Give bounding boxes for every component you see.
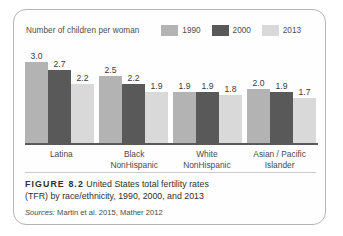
bar-group: 3.02.72.2	[25, 44, 94, 144]
bar-rect	[270, 92, 293, 144]
bar-value-label: 2.2	[128, 73, 140, 83]
sources-label: Sources:	[25, 208, 55, 217]
x-axis-category-labels: LatinaBlackNonHispanicWhiteNonHispanicAs…	[25, 149, 316, 170]
category-label-line: Latina	[25, 149, 98, 160]
bar-blacknonhispanic-2000: 2.2	[122, 44, 145, 144]
legend-entry-2013: 2013	[262, 25, 301, 36]
bar-whitenonhispanic-2000: 1.9	[196, 44, 219, 144]
bar-value-label: 3.0	[31, 51, 43, 61]
figure-number: FIGURE 8.2	[25, 179, 84, 189]
sources-text: Martin et al. 2015, Mather 2012	[55, 208, 163, 217]
category-label-line: Islander	[243, 160, 316, 171]
category-label-line: NonHispanic	[171, 160, 244, 171]
bar-value-label: 1.8	[225, 84, 237, 94]
legend-label-2013: 2013	[283, 26, 301, 35]
bar-latina-1990: 3.0	[25, 44, 48, 144]
caption-divider	[25, 172, 316, 173]
bar-rect	[293, 98, 316, 144]
category-label-line: White	[171, 149, 244, 160]
bar-rect	[247, 89, 270, 144]
legend-entry-1990: 1990	[161, 25, 200, 36]
bar-rect	[25, 62, 48, 144]
legend-entry-2000: 2000	[212, 25, 251, 36]
legend-label-1990: 1990	[182, 26, 200, 35]
category-label: Asian / PacificIslander	[243, 149, 316, 170]
figure-sources: Sources: Martin et al. 2015, Mather 2012	[25, 208, 319, 217]
bar-value-label: 2.7	[54, 59, 66, 69]
figure-card: Number of children per woman 1990 2000 2…	[13, 9, 326, 225]
bar-value-label: 1.9	[202, 81, 214, 91]
bar-value-label: 2.5	[105, 65, 117, 75]
category-label: WhiteNonHispanic	[171, 149, 244, 170]
bar-rect	[219, 95, 242, 144]
bar-group: 1.91.91.8	[173, 44, 242, 144]
figure-caption-line1: United States total fertility rates	[84, 179, 209, 189]
bar-asianpacificislander-2013: 1.7	[293, 44, 316, 144]
bar-rect	[122, 84, 145, 144]
bar-value-label: 2.2	[77, 73, 89, 83]
category-label: Latina	[25, 149, 98, 170]
figure-caption-line2: (TFR) by race/ethnicity, 1990, 2000, and…	[25, 191, 204, 201]
bar-rect	[99, 76, 122, 144]
bar-value-label: 1.9	[276, 81, 288, 91]
bar-whitenonhispanic-2013: 1.8	[219, 44, 242, 144]
bar-rect	[196, 92, 219, 144]
bar-asianpacificislander-1990: 2.0	[247, 44, 270, 144]
bar-rect	[145, 92, 168, 144]
bar-rect	[71, 84, 94, 144]
chart-legend: Number of children per woman 1990 2000 2…	[26, 22, 315, 38]
bar-blacknonhispanic-2013: 1.9	[145, 44, 168, 144]
bar-value-label: 1.7	[299, 87, 311, 97]
x-axis-line	[25, 143, 318, 145]
bar-rect	[173, 92, 196, 144]
bar-blacknonhispanic-1990: 2.5	[99, 44, 122, 144]
bar-chart-plot-area: 3.02.72.22.52.21.91.91.91.82.01.91.7	[25, 44, 316, 144]
category-label-line: Asian / Pacific	[243, 149, 316, 160]
bar-whitenonhispanic-1990: 1.9	[173, 44, 196, 144]
bar-latina-2013: 2.2	[71, 44, 94, 144]
bar-latina-2000: 2.7	[48, 44, 71, 144]
figure-caption: FIGURE 8.2 United States total fertility…	[25, 178, 319, 203]
bar-value-label: 2.0	[253, 78, 265, 88]
category-label-line: NonHispanic	[98, 160, 171, 171]
bar-asianpacificislander-2000: 1.9	[270, 44, 293, 144]
legend-swatch-1990	[161, 25, 178, 36]
bar-group: 2.52.21.9	[99, 44, 168, 144]
bar-rect	[48, 70, 71, 144]
bar-group: 2.01.91.7	[247, 44, 316, 144]
bar-value-label: 1.9	[179, 81, 191, 91]
category-label-line: Black	[98, 149, 171, 160]
legend-swatch-2013	[262, 25, 279, 36]
category-label: BlackNonHispanic	[98, 149, 171, 170]
legend-title: Number of children per woman	[26, 26, 139, 35]
legend-label-2000: 2000	[233, 26, 251, 35]
bar-groups: 3.02.72.22.52.21.91.91.91.82.01.91.7	[25, 44, 316, 144]
bar-value-label: 1.9	[151, 81, 163, 91]
legend-swatch-2000	[212, 25, 229, 36]
